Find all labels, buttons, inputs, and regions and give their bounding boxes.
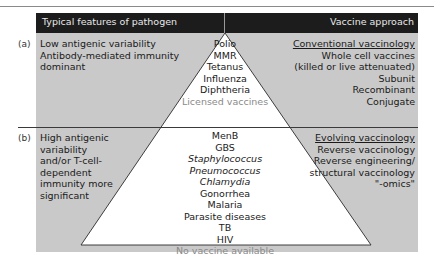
feature-line: and/or T-cell-dependent	[40, 155, 140, 178]
row-b-features: High antigenic variability and/or T-cell…	[40, 132, 140, 201]
no-vaccine-label: No vaccine available	[150, 245, 300, 257]
approach-item: Reverse vaccinology	[265, 144, 415, 156]
pathogen-item: TB	[150, 222, 300, 234]
approach-heading: Evolving vaccinology	[265, 132, 415, 144]
approach-item: "-omics"	[265, 178, 415, 190]
header-divider	[224, 13, 225, 33]
approach-item: structural vaccinology	[265, 167, 415, 179]
pathogen-item: HIV	[150, 234, 300, 246]
feature-line: immunity more	[40, 178, 140, 190]
row-a-marker: (a)	[18, 39, 31, 49]
approach-item: (killed or live attenuated)	[265, 61, 415, 73]
pathogen-item: Malaria	[150, 199, 300, 211]
header-right-title: Vaccine approach	[330, 16, 414, 27]
header-left-title: Typical features of pathogen	[42, 16, 177, 27]
approach-item: Reverse engineering/	[265, 155, 415, 167]
approach-item: Conjugate	[265, 96, 415, 108]
approach-item: Subunit	[265, 73, 415, 85]
row-divider	[18, 127, 418, 128]
pathogen-item: Parasite diseases	[150, 211, 300, 223]
approach-item: Recombinant	[265, 84, 415, 96]
feature-line: High antigenic variability	[40, 132, 140, 155]
approach-heading: Conventional vaccinology	[265, 38, 415, 50]
row-b-approaches: Evolving vaccinology Reverse vaccinology…	[265, 132, 415, 190]
row-b-marker: (b)	[18, 133, 31, 143]
approach-item: Whole cell vaccines	[265, 50, 415, 62]
row-a-approaches: Conventional vaccinology Whole cell vacc…	[265, 38, 415, 107]
feature-line: significant	[40, 190, 140, 202]
